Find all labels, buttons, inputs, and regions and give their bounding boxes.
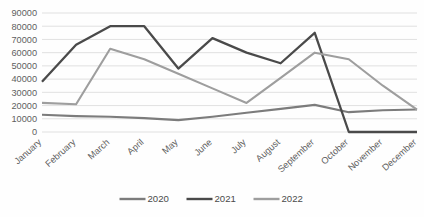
- y-tick-label: 30000: [11, 88, 37, 98]
- y-tick-label: 50000: [11, 61, 37, 71]
- y-tick-label: 80000: [11, 22, 37, 32]
- y-tick-label: 70000: [11, 35, 37, 45]
- chart-background: [0, 0, 424, 217]
- chart-canvas: 9000080000700006000050000400003000020000…: [0, 0, 424, 217]
- y-tick-label: 0: [32, 127, 37, 137]
- legend-label-2022[interactable]: 2022: [282, 193, 303, 204]
- y-tick-label: 60000: [11, 48, 37, 58]
- y-tick-label: 40000: [11, 74, 37, 84]
- y-tick-label: 90000: [11, 8, 37, 18]
- y-tick-label: 20000: [11, 101, 37, 111]
- line-chart-figure: 9000080000700006000050000400003000020000…: [0, 0, 424, 217]
- legend-label-2020[interactable]: 2020: [148, 193, 169, 204]
- y-tick-label: 10000: [11, 114, 37, 124]
- legend-label-2021[interactable]: 2021: [215, 193, 236, 204]
